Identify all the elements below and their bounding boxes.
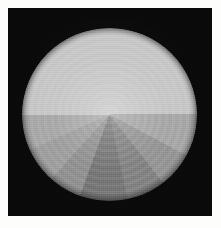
sector-disc-fill — [22, 28, 197, 201]
figure-root — [0, 0, 221, 228]
black-square-plate — [8, 8, 212, 216]
sector-disc — [22, 28, 197, 201]
